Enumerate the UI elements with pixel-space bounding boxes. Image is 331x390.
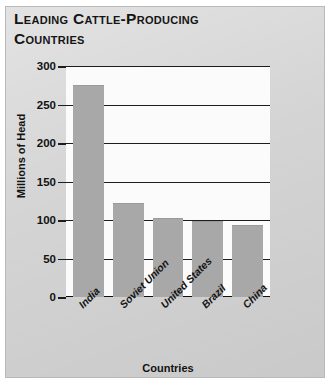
y-axis-title: Millions of Head	[15, 96, 27, 216]
bar-india	[73, 85, 104, 297]
bar-slot-india	[69, 66, 109, 297]
chart-figure: Leading Cattle-Producing Countries 05010…	[0, 0, 331, 390]
y-axis-label-150: 150	[4, 176, 56, 188]
y-axis-label-50: 50	[4, 253, 56, 265]
x-axis-title: Countries	[66, 362, 270, 374]
y-axis-label-0: 0	[4, 291, 56, 303]
chart-title: Leading Cattle-Producing Countries	[14, 9, 304, 50]
y-axis-label-100: 100	[4, 214, 56, 226]
y-axis-tick-labels: 050100150200250300	[0, 0, 56, 390]
y-axis-label-250: 250	[4, 99, 56, 111]
bar-slot-soviet-union	[109, 66, 149, 297]
y-axis-tick-100	[58, 220, 66, 222]
y-axis-label-300: 300	[4, 60, 56, 72]
y-axis-tick-0	[58, 297, 66, 299]
y-axis-tick-300	[58, 66, 66, 68]
y-axis-tick-150	[58, 182, 66, 184]
y-axis-tick-250	[58, 105, 66, 107]
y-axis-tick-200	[58, 143, 66, 145]
y-axis-tick-50	[58, 259, 66, 261]
bar-slot-china	[227, 66, 267, 297]
y-axis-label-200: 200	[4, 137, 56, 149]
